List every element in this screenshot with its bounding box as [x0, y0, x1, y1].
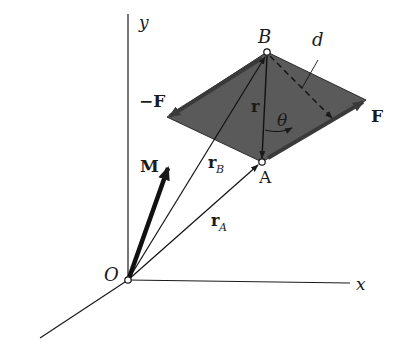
point-B-label: B — [257, 26, 271, 47]
rA-label: r A — [211, 211, 227, 234]
y-axis-label: y — [138, 12, 149, 32]
moment-label: M — [140, 156, 159, 176]
origin-point — [125, 277, 131, 283]
point-A-label: A — [258, 167, 272, 187]
r-label: r — [251, 97, 260, 116]
rA-label-sub: A — [218, 221, 227, 234]
origin-label: O — [104, 264, 119, 285]
theta-label: θ — [277, 110, 287, 130]
rB-label: r B — [208, 153, 224, 176]
d-label: d — [312, 29, 324, 50]
x-axis-label: x — [356, 274, 366, 294]
force-label: F — [371, 106, 383, 126]
couple-moment-diagram: y x O B A −F F d θ r M r B r A — [0, 0, 400, 342]
x-axis — [128, 280, 350, 283]
z-axis — [40, 280, 128, 338]
coordinate-axes — [40, 14, 350, 338]
point-B — [264, 49, 270, 55]
neg-force-label: −F — [139, 91, 165, 111]
rB-label-sub: B — [215, 163, 224, 176]
point-A — [259, 159, 265, 165]
